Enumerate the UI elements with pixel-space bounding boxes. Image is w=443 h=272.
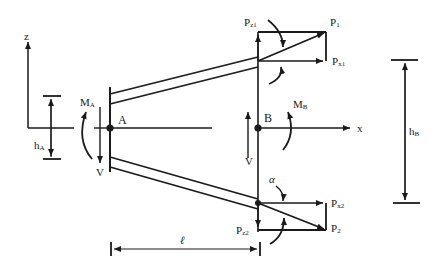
x-axis: x [258,122,363,134]
point-a-dot [106,124,113,131]
free-body-diagram: z hA MA V A B x V [0,0,443,272]
z-axis: z [24,30,74,128]
px1-label: Px1 [332,55,346,68]
x-axis-label: x [357,122,363,134]
moment-ma: MA [80,96,95,159]
p2-label: P2 [331,222,341,235]
shear-v-right: V [245,112,253,167]
hb-label: hB [409,125,420,138]
lower-joint-dot [255,200,261,206]
z-axis-label: z [24,30,29,42]
force-p2: α Px2 P2 Pz2 [236,173,345,244]
alpha-label: α [269,173,275,185]
upper-flange [110,57,258,104]
point-b-label: B [264,111,272,125]
hb-dimension: hB [391,60,420,203]
point-a-label: A [118,113,127,127]
lower-flange [110,157,258,209]
length-dimension: ℓ [111,234,260,256]
pz2-label: Pz2 [236,224,249,237]
v-left-label: V [96,166,104,178]
p1-label: P1 [330,16,340,29]
mb-label: MB [293,98,308,111]
shear-v-left: V [94,107,110,178]
ha-label: hA [34,139,45,152]
ma-label: MA [80,96,95,109]
px2-label: Px2 [331,197,345,210]
pz1-label: Pz1 [244,16,257,29]
force-p1: Pz1 P1 Px1 [244,16,346,84]
length-label: ℓ [180,234,185,246]
v-right-label: V [245,155,253,167]
moment-mb: MB [283,98,308,150]
